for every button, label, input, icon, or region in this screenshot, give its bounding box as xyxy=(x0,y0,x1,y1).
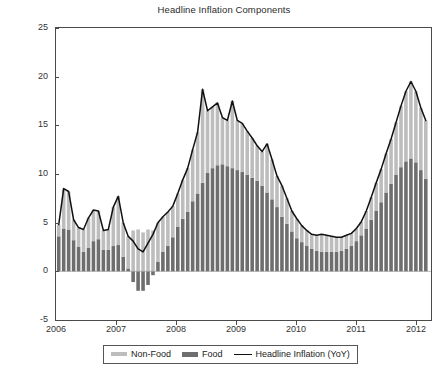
y-axis-tick-label: 25 xyxy=(10,23,48,32)
y-axis-tick-mark xyxy=(55,223,59,224)
x-axis-tick-label: 2010 xyxy=(266,325,326,334)
legend-entry-headline: Headline Inflation (YoY) xyxy=(234,349,350,359)
headline-inflation-line xyxy=(56,28,431,320)
x-axis-tick-label: 2012 xyxy=(386,325,446,334)
x-axis-tick-mark xyxy=(176,321,177,325)
x-axis-tick-mark xyxy=(296,321,297,325)
x-axis-tick-mark xyxy=(416,321,417,325)
inflation-chart-figure: Headline Inflation Components Non-Food F… xyxy=(0,0,448,375)
y-axis-tick-mark xyxy=(55,28,59,29)
x-axis-tick-label: 2009 xyxy=(206,325,266,334)
legend-entry-food: Food xyxy=(182,349,223,359)
chart-legend: Non-Food Food Headline Inflation (YoY) xyxy=(103,345,358,364)
headline-line-swatch-icon xyxy=(234,354,252,355)
y-axis-tick-mark xyxy=(55,271,59,272)
y-axis-tick-label: 5 xyxy=(10,218,48,227)
y-axis-tick-label: -5 xyxy=(10,315,48,324)
y-axis-tick-label: 10 xyxy=(10,169,48,178)
legend-label-food: Food xyxy=(202,349,223,359)
non-food-swatch-icon xyxy=(111,352,127,356)
x-axis-tick-mark xyxy=(236,321,237,325)
x-axis-tick-label: 2007 xyxy=(86,325,146,334)
x-axis-tick-mark xyxy=(116,321,117,325)
y-axis-tick-label: 20 xyxy=(10,72,48,81)
plot-inner xyxy=(56,28,431,320)
y-axis-tick-mark xyxy=(55,320,59,321)
x-axis-tick-label: 2008 xyxy=(146,325,206,334)
y-axis-tick-mark xyxy=(55,125,59,126)
headline-inflation-path xyxy=(59,82,426,252)
x-axis-tick-label: 2006 xyxy=(26,325,86,334)
y-axis-tick-mark xyxy=(55,77,59,78)
food-swatch-icon xyxy=(182,352,198,357)
y-axis-tick-mark xyxy=(55,174,59,175)
legend-label-non-food: Non-Food xyxy=(131,349,171,359)
y-axis-tick-label: 0 xyxy=(10,266,48,275)
chart-title: Headline Inflation Components xyxy=(0,4,448,15)
y-axis-tick-label: 15 xyxy=(10,120,48,129)
legend-label-headline: Headline Inflation (YoY) xyxy=(256,349,350,359)
x-axis-tick-mark xyxy=(356,321,357,325)
plot-area xyxy=(55,27,432,321)
legend-entry-non-food: Non-Food xyxy=(111,349,171,359)
x-axis-tick-label: 2011 xyxy=(326,325,386,334)
